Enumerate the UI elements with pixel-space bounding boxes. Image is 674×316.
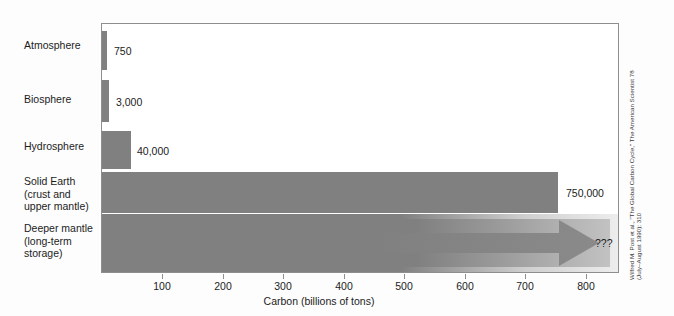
category-label-line: (long-term bbox=[24, 235, 100, 248]
x-tick-label: 500 bbox=[395, 280, 413, 292]
category-label-line: (crust and bbox=[24, 188, 100, 201]
category-label-line: Deeper mantle bbox=[24, 222, 100, 235]
category-label-line: Solid Earth bbox=[24, 175, 100, 188]
x-tick-mark bbox=[465, 274, 466, 279]
source-credit-line-2: (July–August 1990): 310 bbox=[635, 120, 642, 280]
x-tick-label: 800 bbox=[577, 280, 595, 292]
bar-value-deeper-mantle: ??? bbox=[595, 237, 613, 249]
category-label-biosphere: Biosphere bbox=[24, 93, 100, 106]
x-axis-title-wrapper: Carbon (billions of tons) bbox=[0, 295, 674, 307]
source-credit: Wilfred M. Post et al., "The Global Carb… bbox=[628, 120, 643, 280]
category-label-deeper-mantle: Deeper mantle (long-term storage) bbox=[24, 222, 100, 260]
category-label-solid-earth: Solid Earth (crust and upper mantle) bbox=[24, 175, 100, 213]
x-tick-mark bbox=[162, 274, 163, 279]
category-label-hydrosphere: Hydrosphere bbox=[24, 140, 100, 153]
x-tick-mark bbox=[223, 274, 224, 279]
x-tick-label: 300 bbox=[274, 280, 292, 292]
x-tick-mark bbox=[586, 274, 587, 279]
bar-solid-earth bbox=[102, 172, 558, 213]
x-tick-mark bbox=[525, 274, 526, 279]
x-tick-label: 700 bbox=[516, 280, 534, 292]
bar-value-hydrosphere: 40,000 bbox=[137, 145, 169, 157]
x-tick-label: 400 bbox=[335, 280, 353, 292]
x-tick-mark bbox=[283, 274, 284, 279]
carbon-reservoir-bar-chart: Atmosphere Biosphere Hydrosphere Solid E… bbox=[0, 0, 674, 316]
x-tick-label: 100 bbox=[153, 280, 171, 292]
category-label-line: storage) bbox=[24, 247, 100, 260]
source-credit-line-1: Wilfred M. Post et al., "The Global Carb… bbox=[628, 120, 635, 280]
category-label-line: upper mantle) bbox=[24, 200, 100, 213]
x-tick-label: 200 bbox=[214, 280, 232, 292]
category-label-line: Hydrosphere bbox=[24, 140, 100, 153]
x-tick-label: 600 bbox=[456, 280, 474, 292]
category-label-atmosphere: Atmosphere bbox=[24, 39, 100, 52]
x-tick-mark bbox=[404, 274, 405, 279]
bar-value-biosphere: 3,000 bbox=[116, 96, 142, 108]
bar-deeper-mantle bbox=[102, 219, 610, 267]
bar-value-atmosphere: 750 bbox=[114, 45, 132, 57]
category-label-line: Biosphere bbox=[24, 93, 100, 106]
x-axis-title: Carbon (billions of tons) bbox=[264, 295, 375, 307]
x-tick-mark bbox=[344, 274, 345, 279]
category-label-line: Atmosphere bbox=[24, 39, 100, 52]
bar-hydrosphere bbox=[102, 131, 131, 169]
bar-value-solid-earth: 750,000 bbox=[566, 187, 604, 199]
bar-atmosphere bbox=[102, 31, 107, 70]
bar-biosphere bbox=[102, 80, 109, 122]
